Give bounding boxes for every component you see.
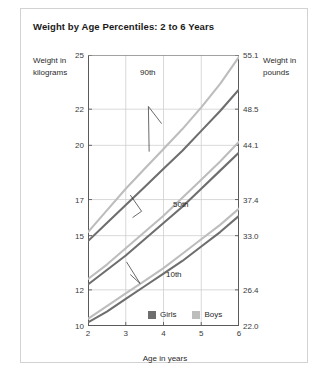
legend-swatch-girls-icon [148,311,156,319]
y-tick-left: 20 [75,141,84,150]
y-tick-right: 37.4 [243,195,259,204]
x-tick: 4 [161,329,165,338]
chart-panel: Weight by Age Percentiles: 2 to 6 Years … [20,8,308,363]
plot-area: 25222017151210 55.148.544.137.433.026.42… [88,55,239,326]
y-axis-right-title: Weight in pounds [263,55,311,79]
y-tick-right: 44.1 [243,141,259,150]
chart-canvas [88,55,239,326]
y-tick-left: 12 [75,285,84,294]
y-tick-right: 22.0 [243,322,259,331]
legend-item-boys[interactable]: Boys [192,310,222,319]
x-tick: 6 [237,329,241,338]
y-tick-right: 26.4 [243,285,259,294]
page-title: Weight by Age Percentiles: 2 to 6 Years [33,21,214,32]
y-tick-right: 33.0 [243,231,259,240]
legend-item-girls[interactable]: Girls [148,310,176,319]
y-tick-left: 25 [75,51,84,60]
legend-label-girls: Girls [160,310,176,319]
x-tick: 5 [199,329,203,338]
y-tick-left: 22 [75,105,84,114]
x-tick: 3 [124,329,128,338]
legend-label-boys: Boys [204,310,222,319]
y-tick-right: 48.5 [243,105,259,114]
legend-swatch-boys-icon [192,311,200,319]
y-tick-left: 17 [75,195,84,204]
y-tick-left: 15 [75,231,84,240]
y-tick-left: 10 [75,322,84,331]
x-axis-title: Age in years [21,354,309,363]
legend: Girls Boys [148,310,222,319]
x-tick: 2 [86,329,90,338]
annotation-50th: 50th [173,200,189,209]
annotation-90th: 90th [140,68,156,77]
annotation-10th: 10th [166,270,182,279]
y-tick-right: 55.1 [243,51,259,60]
